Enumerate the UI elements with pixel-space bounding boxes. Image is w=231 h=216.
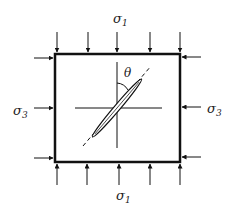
left-stress-label: σ3 [13,103,28,120]
bottom-arrows [57,164,180,185]
angle-label: θ [124,66,132,80]
top-arrows [57,32,180,52]
right-arrows [182,57,201,157]
stress-diagram: σ1 σ1 σ3 σ3 θ [0,0,231,216]
left-arrows [34,58,53,158]
angle-arc [117,83,128,90]
top-stress-label: σ1 [113,11,128,28]
right-stress-label: σ3 [207,101,222,118]
bottom-stress-label: σ1 [116,188,131,205]
